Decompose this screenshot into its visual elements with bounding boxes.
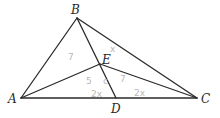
pencil-annotation: 7 xyxy=(68,52,74,62)
pencil-annotation: 2x xyxy=(134,88,146,98)
pencil-annotation: 5 xyxy=(86,76,92,86)
vertex-label-c: C xyxy=(201,92,210,106)
vertex-label-b: B xyxy=(70,3,80,17)
segment-bc xyxy=(77,18,197,98)
segment-ec xyxy=(100,64,197,98)
vertex-labels: ABCDE xyxy=(7,3,210,116)
vertex-label-d: D xyxy=(110,102,121,116)
pencil-annotation: 2x xyxy=(91,89,103,99)
pencil-annotation: x xyxy=(110,44,116,54)
vertex-label-a: A xyxy=(7,92,17,106)
pencil-annotation: c xyxy=(103,76,108,86)
vertex-label-e: E xyxy=(101,53,111,67)
pencil-annotation: 7 xyxy=(120,74,126,84)
triangle-diagram: 7x5c72x2x ABCDE xyxy=(0,0,220,118)
